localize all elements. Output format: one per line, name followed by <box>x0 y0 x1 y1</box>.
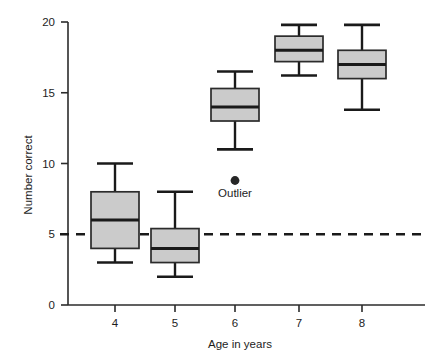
outlier-label: Outlier <box>218 187 252 199</box>
y-axis: 0 5 10 15 20 Number correct <box>22 16 68 311</box>
x-tick-label-6: 6 <box>232 317 238 329</box>
box-plot-age-6[interactable] <box>211 72 259 150</box>
y-axis-title: Number correct <box>22 135 34 215</box>
box-iqr-age-6 <box>211 89 259 122</box>
x-tick-label-5: 5 <box>172 317 178 329</box>
box-plot-age-5[interactable] <box>151 192 199 277</box>
outlier-annotation: Outlier <box>218 176 252 199</box>
boxplot-svg: 0 5 10 15 20 Number correct 4 5 6 7 8 Ag… <box>0 0 434 357</box>
box-iqr-age-5 <box>151 229 199 263</box>
x-tick-label-4: 4 <box>112 317 119 329</box>
y-tick-label-10: 10 <box>42 158 55 170</box>
y-tick-label-0: 0 <box>49 299 55 311</box>
box-plot-age-7[interactable] <box>275 25 323 76</box>
box-plot-age-8[interactable] <box>338 25 386 110</box>
y-tick-label-5: 5 <box>49 228 55 240</box>
x-tick-label-8: 8 <box>359 317 365 329</box>
x-tick-label-7: 7 <box>296 317 302 329</box>
outlier-point-marker <box>231 176 240 185</box>
x-axis: 4 5 6 7 8 Age in years <box>68 305 425 350</box>
y-tick-label-15: 15 <box>42 87 55 99</box>
boxplot-chart: 0 5 10 15 20 Number correct 4 5 6 7 8 Ag… <box>0 0 434 357</box>
y-tick-label-20: 20 <box>42 16 55 28</box>
x-axis-title: Age in years <box>208 338 272 350</box>
box-plot-age-4[interactable] <box>91 164 139 263</box>
